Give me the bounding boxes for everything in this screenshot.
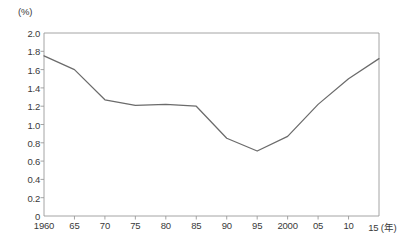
x-axis-tick-label: 95 — [252, 220, 262, 231]
x-axis-tick-label: 90 — [222, 220, 232, 231]
x-axis-tick-label: 85 — [191, 220, 201, 231]
x-axis-tick-label: 80 — [161, 220, 171, 231]
x-axis-tick-label: 65 — [69, 220, 79, 231]
x-axis-tick-label: 05 — [313, 220, 323, 231]
x-axis-tick-label: 70 — [100, 220, 110, 231]
x-axis-tick-label-last: 15 (年) — [368, 220, 396, 234]
x-axis-tick-marks — [74, 216, 348, 220]
x-axis-tick-label: 75 — [130, 220, 140, 231]
y-axis-tick-marks — [41, 51, 45, 197]
plot-frame — [44, 33, 379, 216]
line-chart: (%) 2.01.81.61.41.21.00.80.60.40.20 1960… — [0, 0, 405, 246]
x-axis-tick-label: 2000 — [277, 220, 297, 231]
data-series-line — [44, 56, 379, 151]
x-axis-tick-label: 1960 — [34, 220, 54, 231]
x-axis-tick-label: 10 — [343, 220, 353, 231]
plot-area — [0, 0, 405, 246]
